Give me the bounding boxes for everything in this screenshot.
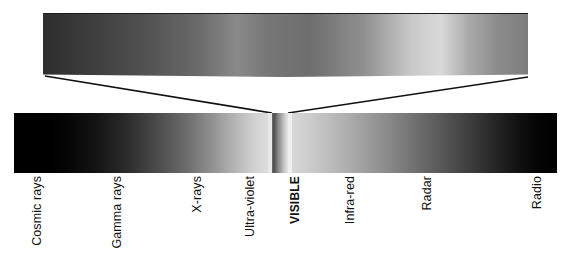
band-label-infra-red: Infra-red — [343, 176, 357, 224]
full-spectrum-bar — [14, 113, 557, 173]
magnified-spectrum-gradient — [43, 13, 528, 77]
magnified-bar-top-edge — [43, 13, 528, 14]
band-label-radio: Radio — [530, 176, 544, 209]
band-label-visible: VISIBLE — [288, 176, 302, 224]
electromagnetic-spectrum-figure: Cosmic raysGamma raysX-raysUltra-violetV… — [0, 0, 572, 271]
band-label-cosmic-rays: Cosmic rays — [30, 176, 44, 246]
band-label-ultra-violet: Ultra-violet — [243, 176, 257, 237]
spectrum-segment-visible — [272, 113, 288, 173]
band-label-radar: Radar — [420, 176, 434, 211]
cut-off-caption — [8, 0, 268, 3]
spectrum-segment-low-energy — [292, 113, 557, 173]
band-label-x-rays: X-rays — [190, 176, 204, 213]
magnified-visible-spectrum-bar — [43, 13, 528, 77]
leader-line-right — [288, 77, 528, 113]
spectrum-band-labels: Cosmic raysGamma raysX-raysUltra-violetV… — [0, 176, 572, 271]
leader-line-left — [45, 76, 272, 113]
spectrum-segment-high-energy — [14, 113, 268, 173]
band-label-gamma-rays: Gamma rays — [110, 176, 124, 249]
